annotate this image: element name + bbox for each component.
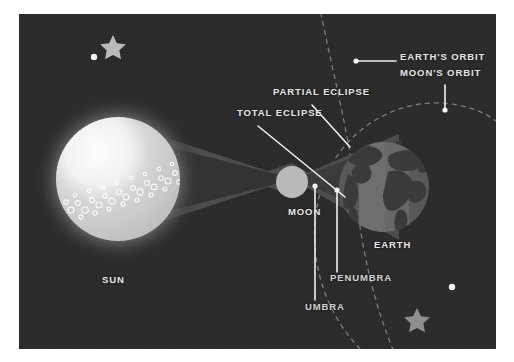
diagram-canvas: SUN MOON EARTH TOTAL ECLIPSE PARTIAL ECL… (0, 0, 514, 362)
label-moon: MOON (288, 207, 321, 217)
star-bottom-right-icon (404, 308, 430, 332)
label-partial-eclipse: PARTIAL ECLIPSE (273, 87, 370, 97)
leader-dot-earths-orbit (353, 58, 358, 63)
dot-top-left-icon (91, 54, 97, 60)
label-moons-orbit: MOON'S ORBIT (400, 68, 481, 78)
label-earths-orbit: EARTH'S ORBIT (400, 52, 485, 62)
leader-dot-umbra (312, 183, 317, 188)
label-penumbra: PENUMBRA (330, 273, 392, 283)
leader-dot-penumbra (334, 187, 339, 192)
sun-body (34, 95, 202, 263)
star-top-left-icon (100, 35, 126, 59)
label-sun: SUN (102, 275, 125, 285)
label-total-eclipse: TOTAL ECLIPSE (237, 108, 323, 118)
label-earth: EARTH (374, 240, 411, 250)
earth-body (339, 142, 431, 233)
leader-dot-moons-orbit (442, 107, 447, 112)
dot-bottom-right-icon (449, 284, 455, 290)
solar-eclipse-diagram-panel: SUN MOON EARTH TOTAL ECLIPSE PARTIAL ECL… (19, 14, 496, 349)
diagram-artwork (19, 14, 496, 349)
label-umbra: UMBRA (305, 302, 345, 312)
moon-body (276, 166, 308, 198)
